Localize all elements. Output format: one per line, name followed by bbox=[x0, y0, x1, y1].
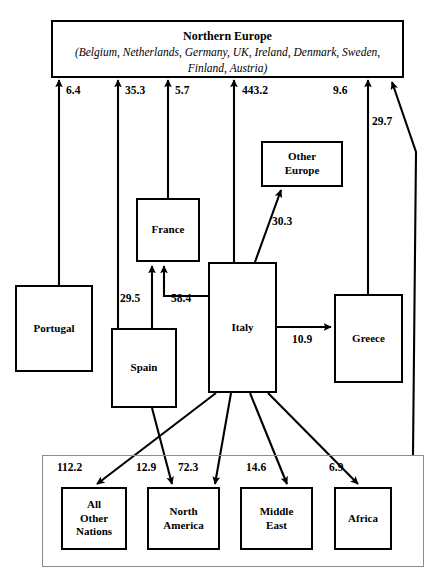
node-all-other-nations[interactable]: All Other Nations bbox=[61, 487, 127, 550]
flow-label-italy-to-all-other-nations: 112.2 bbox=[57, 461, 82, 473]
flow-diagram: 6.4 35.3 5.7 443.2 9.6 29.7 30.3 29.5 58… bbox=[0, 0, 441, 587]
node-middle-east[interactable]: Middle East bbox=[240, 487, 313, 550]
flow-label-france-to-northern-europe: 5.7 bbox=[175, 84, 189, 96]
node-other-europe[interactable]: Other Europe bbox=[261, 141, 343, 187]
flow-label-italy-to-greece: 10.9 bbox=[292, 333, 312, 345]
flow-label-italy-to-north-america: 72.3 bbox=[178, 461, 198, 473]
flow-label-italy-to-africa: 6.9 bbox=[329, 461, 343, 473]
flow-label-italy-to-other-europe: 30.3 bbox=[272, 215, 292, 227]
node-north-america[interactable]: North America bbox=[147, 487, 220, 550]
node-spain[interactable]: Spain bbox=[111, 328, 177, 408]
node-africa[interactable]: Africa bbox=[334, 487, 392, 550]
flow-label-bottom-group-to-northern-europe: 29.7 bbox=[372, 115, 392, 127]
edge-bottom-group-to-northern-europe bbox=[392, 82, 416, 455]
flow-label-spain-to-north-america: 12.9 bbox=[136, 461, 156, 473]
node-northern-europe[interactable]: Northern Europe (Belgium, Netherlands, G… bbox=[51, 20, 404, 78]
node-france[interactable]: France bbox=[136, 198, 200, 262]
flow-label-italy-to-middle-east: 14.6 bbox=[246, 461, 266, 473]
flow-label-spain-to-northern-europe: 35.3 bbox=[125, 84, 145, 96]
flow-label-portugal-to-northern-europe: 6.4 bbox=[66, 84, 80, 96]
flow-label-greece-to-northern-europe: 9.6 bbox=[333, 84, 347, 96]
northern-europe-title: Northern Europe bbox=[53, 29, 402, 44]
flow-label-italy-to-northern-europe: 443.2 bbox=[242, 84, 268, 96]
node-portugal[interactable]: Portugal bbox=[15, 285, 93, 372]
node-greece[interactable]: Greece bbox=[334, 294, 403, 383]
flow-label-italy-to-france: 58.4 bbox=[171, 292, 191, 304]
node-italy[interactable]: Italy bbox=[208, 262, 277, 393]
flow-label-spain-to-france: 29.5 bbox=[120, 292, 140, 304]
northern-europe-subtitle: (Belgium, Netherlands, Germany, UK, Irel… bbox=[53, 45, 402, 76]
